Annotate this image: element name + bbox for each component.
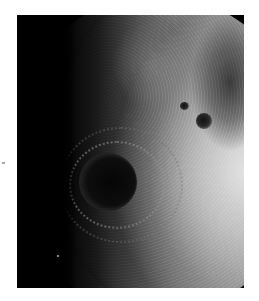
moon-photo [17, 15, 244, 288]
moon-limb [47, 15, 244, 288]
edge-mark [2, 162, 5, 164]
